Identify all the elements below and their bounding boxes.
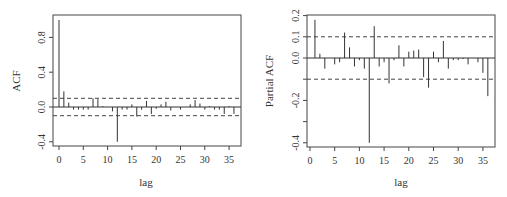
pacf-plot: 05101520253035-0.4-0.20.00.10.2 <box>290 9 495 166</box>
x-tick-label: 5 <box>81 154 86 165</box>
y-tick-label: 0.8 <box>36 31 47 44</box>
y-tick-label: 0.0 <box>290 52 301 65</box>
acf-y-axis-label: ACF <box>10 70 22 91</box>
x-tick-label: 30 <box>453 155 463 166</box>
plot-frame <box>53 15 241 146</box>
x-tick-label: 35 <box>224 154 234 165</box>
acf-plot: 05101520253035-0.40.00.40.8 <box>36 15 241 165</box>
x-tick-label: 25 <box>429 155 439 166</box>
x-tick-label: 30 <box>200 154 210 165</box>
x-tick-label: 0 <box>308 155 313 166</box>
x-tick-label: 10 <box>103 154 113 165</box>
pacf-y-axis-label: Partial ACF <box>263 55 275 107</box>
pacf-x-axis-label: lag <box>394 176 408 188</box>
y-tick-label: -0.4 <box>36 134 47 150</box>
acf-pacf-figure: 05101520253035-0.40.00.40.8 051015202530… <box>0 0 507 197</box>
plot-frame <box>307 15 495 147</box>
x-tick-label: 25 <box>176 154 186 165</box>
x-tick-label: 10 <box>354 155 364 166</box>
y-tick-label: 0.2 <box>290 9 301 22</box>
y-tick-label: -0.2 <box>290 92 301 108</box>
y-tick-label: 0.1 <box>290 31 301 44</box>
y-tick-label: 0.0 <box>36 101 47 114</box>
x-tick-label: 0 <box>57 154 62 165</box>
x-tick-label: 20 <box>151 154 161 165</box>
x-tick-label: 5 <box>332 155 337 166</box>
x-tick-label: 15 <box>127 154 137 165</box>
x-tick-label: 15 <box>379 155 389 166</box>
x-tick-label: 35 <box>478 155 488 166</box>
y-tick-label: 0.4 <box>36 66 47 79</box>
x-tick-label: 20 <box>404 155 414 166</box>
acf-x-axis-label: lag <box>139 176 153 188</box>
y-tick-label: -0.4 <box>290 135 301 151</box>
